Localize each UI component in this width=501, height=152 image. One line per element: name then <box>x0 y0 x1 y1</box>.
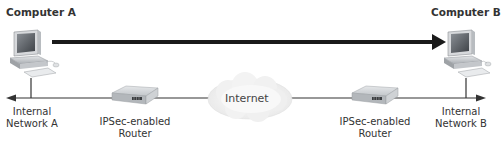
router-b-label-line2: Router <box>335 128 415 140</box>
router-b-label: IPSec-enabled Router <box>335 116 415 140</box>
computer-a-label: Computer A <box>6 6 76 18</box>
network-a-label-line2: Network A <box>2 118 62 130</box>
desktop-computer-icon <box>444 30 491 77</box>
tunnel-arrow <box>52 34 446 50</box>
router-b-label-line1: IPSec-enabled <box>335 116 415 128</box>
network-a-label: Internal Network A <box>2 106 62 130</box>
network-b-label: Internal Network B <box>430 106 492 130</box>
network-a-label-line1: Internal <box>2 106 62 118</box>
desktop-computer-icon <box>10 30 59 77</box>
network-b-label-line2: Network B <box>430 118 492 130</box>
router-a-label-line2: Router <box>95 128 175 140</box>
router-a-label-line1: IPSec-enabled <box>95 116 175 128</box>
router-icon <box>112 86 158 104</box>
network-b-label-line1: Internal <box>430 106 492 118</box>
router-a-label: IPSec-enabled Router <box>95 116 175 140</box>
router-icon <box>352 86 398 104</box>
computer-b-label: Computer B <box>431 6 501 18</box>
internet-label: Internet <box>225 93 269 105</box>
